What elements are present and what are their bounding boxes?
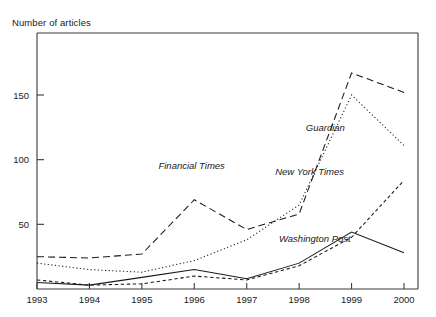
x-tick-label: 1995 xyxy=(131,294,152,305)
y-tick-label: 50 xyxy=(18,219,29,230)
y-tick-label: 100 xyxy=(13,154,29,165)
x-tick-label: 1999 xyxy=(341,294,362,305)
series-label-guardian: Guardian xyxy=(306,122,345,133)
series-labels: Financial TimesGuardianNew York TimesWas… xyxy=(158,122,351,244)
series-label-new-york-times: New York Times xyxy=(275,166,344,177)
x-tick-label: 1993 xyxy=(26,294,47,305)
line-chart: Number of articles 50100150 199319941995… xyxy=(0,0,436,317)
y-tick-label: 150 xyxy=(13,90,29,101)
series-line-guardian xyxy=(37,95,404,272)
series-label-financial-times: Financial Times xyxy=(158,160,225,171)
axes xyxy=(37,33,418,289)
x-tick-label: 1998 xyxy=(289,294,310,305)
series-label-washington-post: Washington Post xyxy=(279,233,351,244)
x-tick-label: 1994 xyxy=(79,294,100,305)
y-axis-ticks: 50100150 xyxy=(13,90,44,230)
x-tick-label: 2000 xyxy=(393,294,414,305)
x-tick-label: 1996 xyxy=(184,294,205,305)
series-lines xyxy=(37,73,404,285)
x-tick-label: 1997 xyxy=(236,294,257,305)
x-axis-ticks: 19931994199519961997199819992000 xyxy=(26,283,414,305)
plot-area: 50100150 1993199419951996199719981999200… xyxy=(0,0,436,317)
